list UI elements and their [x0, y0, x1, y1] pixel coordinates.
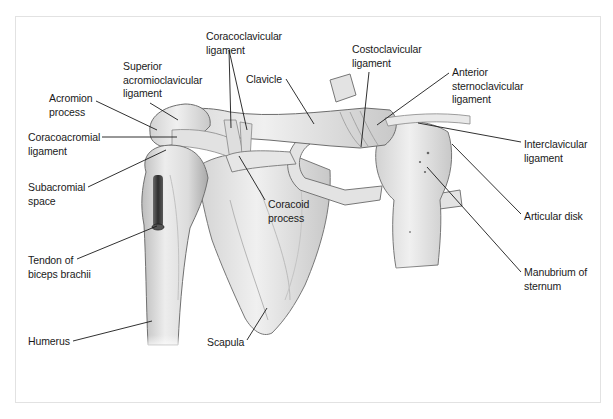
manubrium-shape	[376, 121, 452, 280]
label-coracoid-process: Coracoid process	[268, 198, 309, 225]
label-acromion-process: Acromion process	[49, 92, 93, 119]
biceps-tendon-shape	[152, 175, 164, 230]
label-scapula: Scapula	[207, 336, 244, 350]
label-interclavicular-ligament: Interclavicular ligament	[524, 138, 587, 165]
label-humerus: Humerus	[28, 335, 70, 349]
label-manubrium-of-sternum: Manubrium of sternum	[524, 266, 587, 293]
label-coracoclavicular-ligament: Coracoclavicular ligament	[206, 30, 282, 57]
label-coracoacromial-ligament: Coracoacromial ligament	[28, 131, 100, 158]
leader-line-articular-disk	[452, 144, 521, 214]
label-subacromial-space: Subacromial space	[28, 181, 85, 208]
label-anterior-sternoclavicular-ligament: Anterior sternoclavicular ligament	[452, 66, 523, 107]
label-costoclavicular-ligament: Costoclavicular ligament	[352, 43, 422, 70]
leader-line-acromion-process	[96, 101, 157, 130]
label-articular-disk: Articular disk	[524, 210, 583, 224]
label-superior-acromioclavicular-ligament: Superior acromioclavicular ligament	[123, 60, 202, 101]
label-tendon-of-biceps-brachii: Tendon of biceps brachii	[28, 254, 91, 281]
humerus-shape	[140, 145, 208, 350]
label-clavicle: Clavicle	[246, 73, 282, 87]
